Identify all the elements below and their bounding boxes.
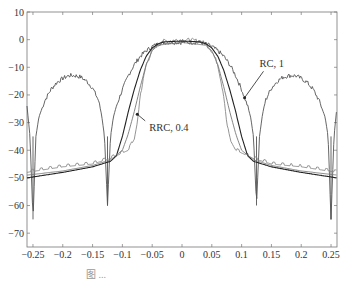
y-tick-label: −40	[8, 145, 24, 156]
series-line	[27, 41, 336, 178]
x-tick-label: −0.25	[21, 249, 44, 260]
x-tick-label: 0	[180, 249, 185, 260]
figure-caption: 图 ...	[86, 266, 106, 281]
y-tick-label: −20	[8, 89, 24, 100]
x-tick-label: 0.05	[203, 249, 221, 260]
y-tick-label: 0	[19, 34, 24, 45]
y-tick-label: −70	[8, 228, 24, 239]
y-tick-label: −10	[8, 62, 24, 73]
y-tick-label: −60	[8, 200, 24, 211]
x-tick-label: 0.1	[235, 249, 248, 260]
x-tick-label: −0.2	[54, 249, 72, 260]
x-tick-label: 0.15	[263, 249, 281, 260]
annotation-arrow	[137, 114, 145, 121]
series-line	[27, 38, 336, 172]
arrow-head-icon	[136, 113, 139, 116]
x-tick-label: −0.05	[141, 249, 164, 260]
x-tick-label: −0.1	[113, 249, 131, 260]
arrow-head-icon	[243, 96, 246, 99]
annotation-label: RC, 1	[260, 58, 285, 69]
x-tick-label: 0.2	[295, 249, 308, 260]
y-tick-label: −30	[8, 117, 24, 128]
annotation-arrow	[245, 71, 264, 97]
y-tick-label: −50	[8, 172, 24, 183]
x-tick-label: 0.25	[322, 249, 340, 260]
annotation-label: RRC, 0.4	[149, 122, 189, 133]
x-tick-label: −0.15	[81, 249, 104, 260]
series-line	[27, 42, 336, 175]
y-tick-label: 10	[14, 7, 24, 18]
